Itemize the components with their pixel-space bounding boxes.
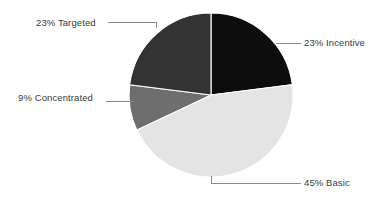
leader-line-targeted	[108, 22, 156, 28]
pie-label-targeted: 23% Targeted	[36, 18, 96, 28]
pie-slice-targeted[interactable]	[130, 13, 211, 95]
pie-label-basic: 45% Basic	[304, 178, 350, 188]
pie-label-concentrated: 9% Concentrated	[18, 93, 93, 103]
pie-slice-incentive[interactable]	[211, 13, 292, 95]
pie-label-incentive: 23% Incentive	[304, 38, 365, 48]
pie-slice-group	[129, 13, 293, 177]
leader-line-basic	[211, 176, 301, 183]
pie-chart-figure: 23% Targeted 23% Incentive 9% Concentrat…	[0, 0, 390, 205]
